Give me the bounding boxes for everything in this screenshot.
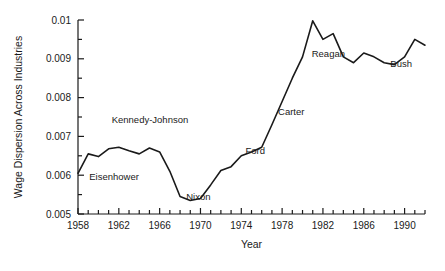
- x-axis-title: Year: [241, 238, 263, 250]
- annotation-nixon: Nixon: [186, 191, 210, 202]
- annotation-reagan: Reagan: [312, 48, 345, 59]
- x-tick-label: 1982: [312, 220, 335, 231]
- x-tick-label: 1970: [189, 220, 212, 231]
- annotation-ford: Ford: [245, 145, 265, 156]
- x-tick-label: 1962: [108, 220, 131, 231]
- annotation-eisenhower: Eisenhower: [89, 171, 139, 182]
- x-tick-label: 1978: [271, 220, 294, 231]
- x-tick-label: 1958: [67, 220, 90, 231]
- y-tick-label: 0.005: [46, 209, 71, 220]
- x-tick-label: 1966: [149, 220, 172, 231]
- annotation-bush: Bush: [390, 58, 412, 69]
- x-tick-label: 1974: [230, 220, 253, 231]
- x-tick-label: 1986: [353, 220, 376, 231]
- annotation-kennedy-johnson: Kennedy-Johnson: [112, 114, 189, 125]
- line-chart: 0.0050.0060.0070.0080.0090.0119581962196…: [0, 0, 445, 271]
- annotation-carter: Carter: [278, 106, 304, 117]
- x-tick-label: 1990: [393, 220, 416, 231]
- y-tick-label: 0.008: [46, 92, 71, 103]
- chart-container: 0.0050.0060.0070.0080.0090.0119581962196…: [0, 0, 445, 271]
- y-tick-label: 0.01: [52, 15, 72, 26]
- y-tick-label: 0.007: [46, 131, 71, 142]
- y-tick-label: 0.009: [46, 53, 71, 64]
- y-tick-label: 0.006: [46, 170, 71, 181]
- y-axis-title: Wage Dispersion Across Industries: [12, 36, 24, 198]
